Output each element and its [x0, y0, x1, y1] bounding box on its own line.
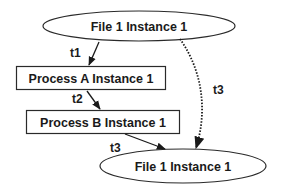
node-process-b: Process B Instance 1: [27, 111, 180, 134]
dotted-arrow-icon: [180, 39, 202, 148]
node-file1-top: File 1 Instance 1: [43, 11, 235, 41]
provenance-diagram: File 1 Instance 1 Process A Instance 1 P…: [0, 0, 281, 189]
edge-label: t3: [110, 141, 121, 155]
arrow-icon: [89, 42, 99, 65]
node-label: File 1 Instance 1: [135, 160, 232, 174]
edge-label: t3: [213, 83, 224, 97]
node-file1-bottom: File 1 Instance 1: [100, 149, 266, 183]
edge-t3-dotted: t3: [180, 39, 224, 148]
node-label: Process A Instance 1: [29, 72, 154, 86]
arrow-icon: [87, 91, 100, 109]
node-label: File 1 Instance 1: [91, 20, 188, 34]
edge-t2: t2: [72, 91, 100, 109]
edge-label: t2: [72, 92, 83, 106]
node-label: Process B Instance 1: [40, 116, 166, 130]
edge-label: t1: [70, 46, 81, 60]
edge-t1: t1: [70, 42, 99, 65]
node-process-a: Process A Instance 1: [17, 67, 166, 90]
arrow-icon: [125, 134, 165, 149]
